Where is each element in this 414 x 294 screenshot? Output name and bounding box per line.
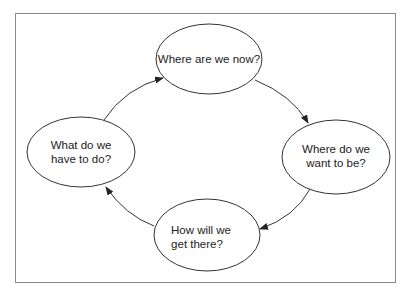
node-ellipse <box>27 117 135 187</box>
node-label-line-1: What do we <box>51 139 112 151</box>
node-label-line-2: want to be? <box>305 157 365 169</box>
arrow-now-to-want <box>255 80 308 123</box>
node-label-line-2: have to do? <box>51 153 111 165</box>
node-label: Where are we now? <box>158 53 260 65</box>
node-what-do-we-have-to-do: What do we have to do? <box>27 117 135 187</box>
arrow-todo-to-now <box>104 78 163 120</box>
arrow-want-to-how <box>260 189 310 229</box>
node-how-will-we-get-there: How will we get there? <box>154 199 260 271</box>
node-where-are-we-now: Where are we now? <box>156 24 262 94</box>
node-label-line-1: How will we <box>171 224 231 236</box>
node-label-line-1: Where do we <box>302 143 370 155</box>
node-label-line-2: get there? <box>171 238 223 250</box>
arrow-how-to-todo <box>106 187 154 226</box>
node-where-do-we-want-to-be: Where do we want to be? <box>282 120 390 194</box>
cycle-diagram: Where are we now? Where do we want to be… <box>0 0 414 294</box>
